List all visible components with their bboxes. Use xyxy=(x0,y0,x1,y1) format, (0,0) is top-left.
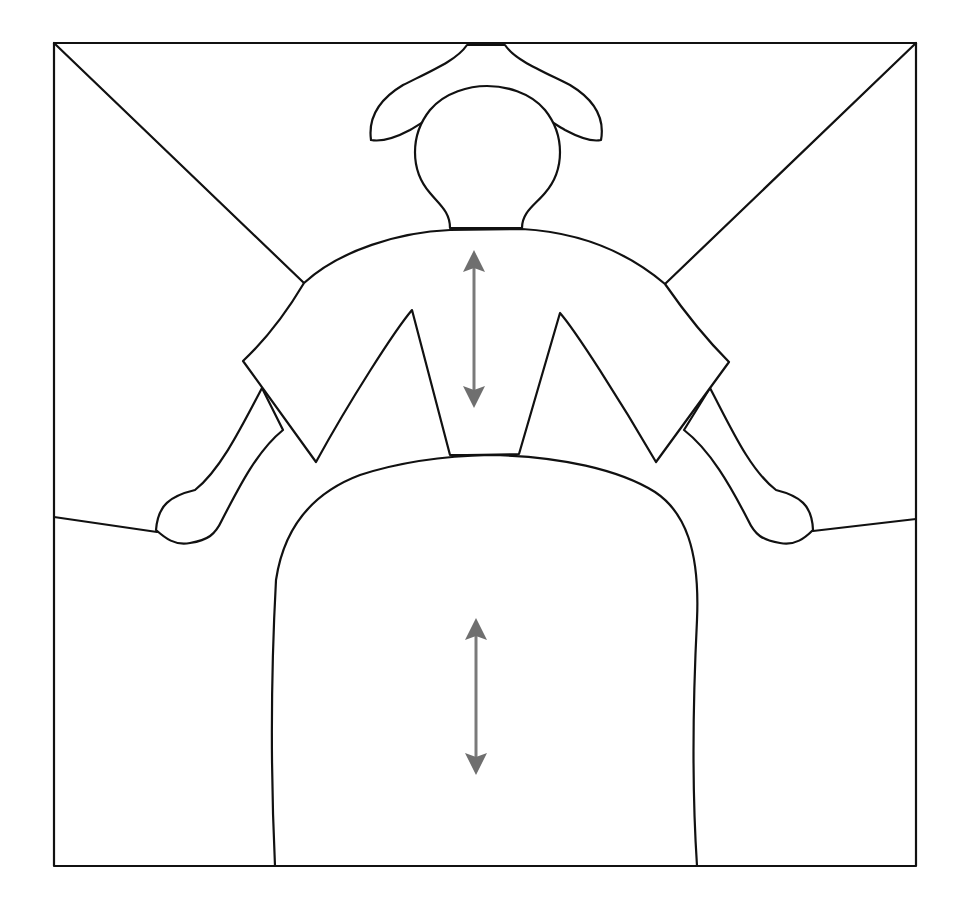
diagonal-top-right xyxy=(665,43,916,284)
diagram-canvas xyxy=(0,0,964,924)
torso-gown xyxy=(243,229,729,462)
head xyxy=(415,86,560,228)
floor-line-left xyxy=(54,517,157,532)
diagonal-top-left xyxy=(54,43,304,283)
left-arm xyxy=(156,388,283,544)
right-arm xyxy=(684,388,813,544)
table-lower-body xyxy=(272,455,698,866)
floor-line-right xyxy=(813,519,916,531)
